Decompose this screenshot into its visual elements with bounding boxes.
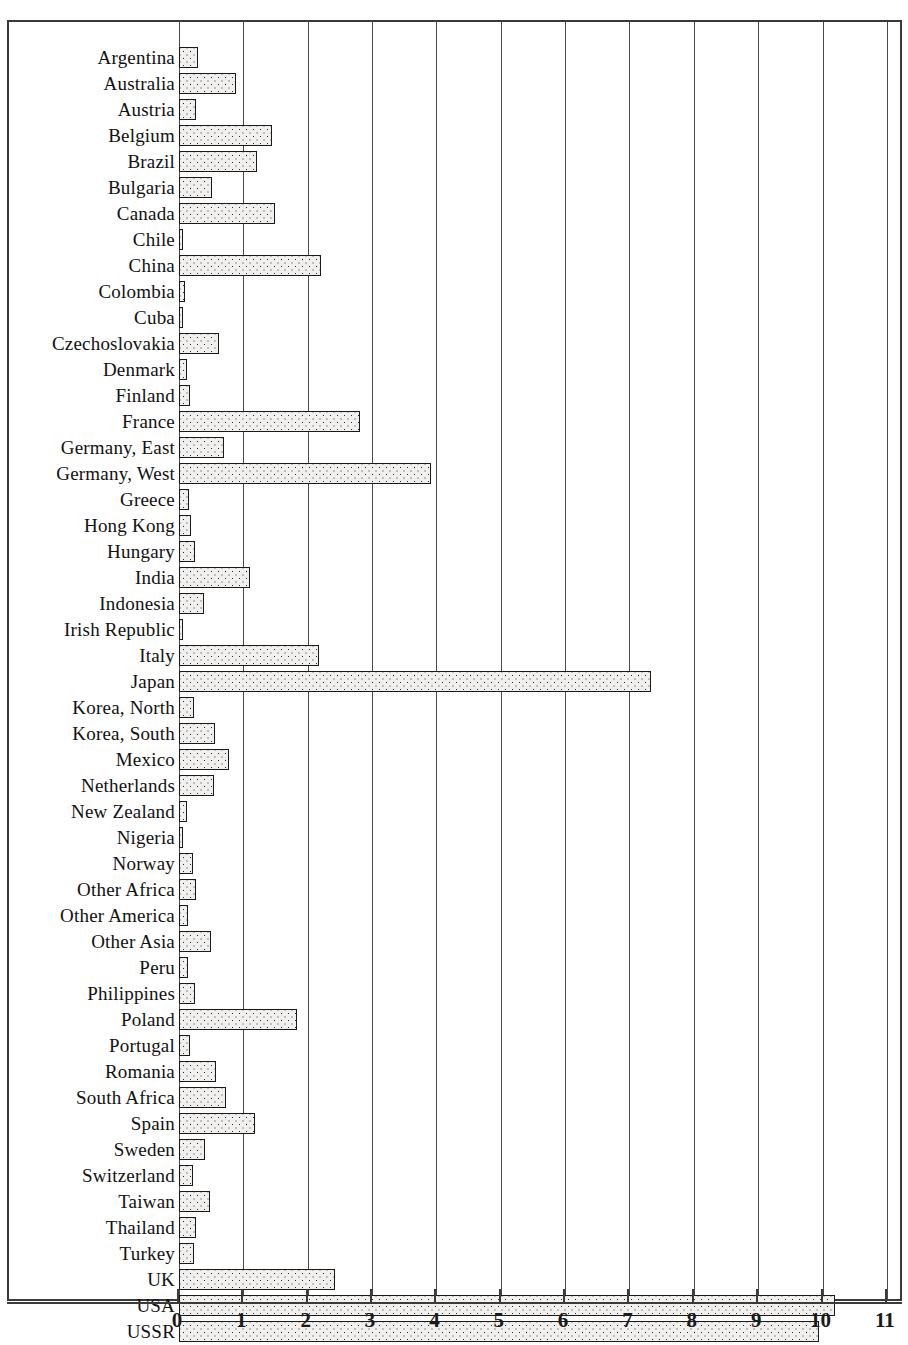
chart-row: Philippines (9, 981, 900, 1007)
category-label: Romania (105, 1059, 179, 1085)
bar (179, 385, 190, 406)
chart-row: UK (9, 1267, 900, 1293)
chart-row: Bulgaria (9, 175, 900, 201)
chart-row: France (9, 409, 900, 435)
plot-frame: ArgentinaAustraliaAustriaBelgiumBrazilBu… (7, 20, 902, 1301)
x-tick-label-8: 8 (672, 1308, 712, 1333)
category-label: Chile (133, 227, 179, 253)
bar (179, 931, 211, 952)
chart-row: Colombia (9, 279, 900, 305)
category-label: UK (147, 1267, 179, 1293)
chart-row: Korea, North (9, 695, 900, 721)
bar (179, 1113, 255, 1134)
category-label: Korea, North (72, 695, 179, 721)
category-label: Other Africa (77, 877, 179, 903)
chart-row: Canada (9, 201, 900, 227)
bar (179, 99, 196, 120)
bar (179, 203, 275, 224)
chart-row: Spain (9, 1111, 900, 1137)
chart-row: Korea, South (9, 721, 900, 747)
bar (179, 1061, 216, 1082)
category-label: Taiwan (118, 1189, 179, 1215)
chart-row: Sweden (9, 1137, 900, 1163)
category-label: Italy (139, 643, 179, 669)
category-label: South Africa (76, 1085, 179, 1111)
category-label: Czechoslovakia (52, 331, 179, 357)
x-tick-0 (177, 1289, 179, 1302)
chart-row: Hong Kong (9, 513, 900, 539)
category-label: Germany, West (56, 461, 179, 487)
bar (179, 359, 187, 380)
bars-and-labels: ArgentinaAustraliaAustriaBelgiumBrazilBu… (9, 22, 900, 1299)
bar (179, 1243, 194, 1264)
category-label: Canada (117, 201, 179, 227)
bar (179, 411, 360, 432)
bar (179, 983, 195, 1004)
clipped-title (0, 0, 908, 14)
chart-row: Japan (9, 669, 900, 695)
chart-row: Argentina (9, 45, 900, 71)
chart-row: Austria (9, 97, 900, 123)
x-tick-label-4: 4 (414, 1308, 454, 1333)
bar (179, 73, 236, 94)
chart-row: Chile (9, 227, 900, 253)
category-label: Norway (113, 851, 179, 877)
bar (179, 177, 212, 198)
x-tick-9 (756, 1289, 758, 1302)
chart-row: Netherlands (9, 773, 900, 799)
bar (179, 463, 431, 484)
x-tick-11 (885, 1289, 887, 1302)
chart-row: New Zealand (9, 799, 900, 825)
bar (179, 437, 224, 458)
bar (179, 489, 189, 510)
x-tick-2 (306, 1289, 308, 1302)
category-label: Hong Kong (84, 513, 179, 539)
bar (179, 1139, 205, 1160)
category-label: Other America (60, 903, 179, 929)
category-label: Portugal (109, 1033, 179, 1059)
x-tick-10 (821, 1289, 823, 1302)
category-label: Mexico (116, 747, 179, 773)
chart-row: Other Africa (9, 877, 900, 903)
bar (179, 853, 193, 874)
chart-row: Indonesia (9, 591, 900, 617)
bar (179, 645, 319, 666)
bar (179, 229, 183, 250)
bar (179, 619, 183, 640)
chart-row: Greece (9, 487, 900, 513)
bar (179, 957, 188, 978)
chart-row: Italy (9, 643, 900, 669)
category-label: Greece (120, 487, 179, 513)
bar (179, 1087, 226, 1108)
chart-row: Finland (9, 383, 900, 409)
bar (179, 1035, 190, 1056)
chart-row: Australia (9, 71, 900, 97)
bar (179, 307, 183, 328)
bar (179, 1009, 297, 1030)
bar (179, 541, 195, 562)
bar (179, 515, 191, 536)
x-tick-4 (434, 1289, 436, 1302)
bar (179, 567, 250, 588)
chart-row: Other America (9, 903, 900, 929)
category-label: Poland (121, 1007, 179, 1033)
x-axis: 01234567891011 (7, 1299, 902, 1345)
chart-row: Nigeria (9, 825, 900, 851)
category-label: Finland (116, 383, 179, 409)
x-tick-label-5: 5 (479, 1308, 519, 1333)
category-label: Philippines (87, 981, 179, 1007)
chart-row: Romania (9, 1059, 900, 1085)
bar (179, 125, 272, 146)
category-label: Bulgaria (108, 175, 179, 201)
bar (179, 47, 198, 68)
bar (179, 151, 257, 172)
bar (179, 905, 188, 926)
x-tick-label-9: 9 (736, 1308, 776, 1333)
chart-row: South Africa (9, 1085, 900, 1111)
bar (179, 1191, 210, 1212)
chart-row: Turkey (9, 1241, 900, 1267)
category-label: Belgium (108, 123, 179, 149)
chart-row: Cuba (9, 305, 900, 331)
category-label: Indonesia (99, 591, 179, 617)
chart-row: Thailand (9, 1215, 900, 1241)
